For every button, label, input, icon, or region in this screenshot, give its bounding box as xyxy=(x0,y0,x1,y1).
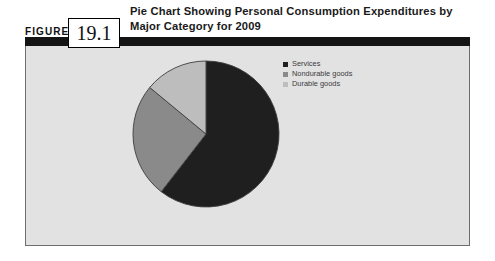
figure-title: Pie Chart Showing Personal Consumption E… xyxy=(130,4,480,33)
legend-swatch-nondurable-goods xyxy=(283,72,288,77)
figure-number-box: 19.1 xyxy=(68,18,120,48)
legend-item-services: Services xyxy=(283,60,352,69)
figure-container: FIGURE 19.1 Pie Chart Showing Personal C… xyxy=(0,0,495,261)
chart-legend: Services Nondurable goods Durable goods xyxy=(283,60,352,90)
legend-label-durable-goods: Durable goods xyxy=(292,80,340,89)
pie-chart-svg xyxy=(128,58,288,218)
legend-label-nondurable-goods: Nondurable goods xyxy=(292,70,352,79)
legend-swatch-services xyxy=(283,62,288,67)
legend-swatch-durable-goods xyxy=(283,82,288,87)
legend-label-services: Services xyxy=(292,60,320,69)
pie-chart xyxy=(128,58,288,218)
legend-item-nondurable-goods: Nondurable goods xyxy=(283,70,352,79)
figure-number: 19.1 xyxy=(77,23,112,43)
legend-item-durable-goods: Durable goods xyxy=(283,80,352,89)
